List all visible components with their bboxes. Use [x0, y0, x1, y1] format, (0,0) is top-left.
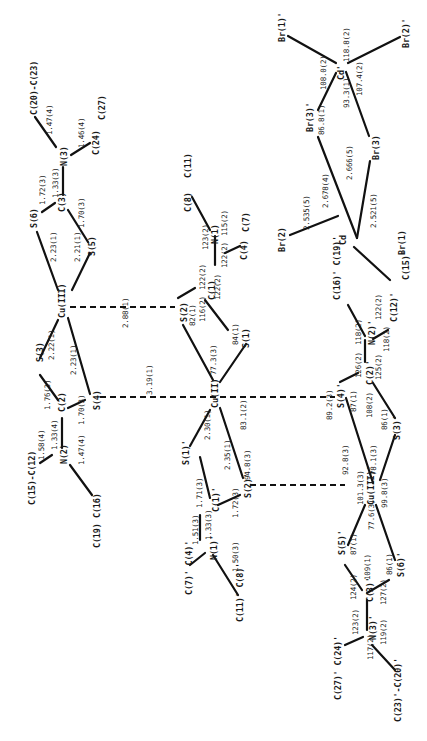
angle-cu2-s4p: 83.1(2) [240, 400, 248, 430]
bond-cu2-s1p: 2.30(1) [204, 410, 212, 440]
angle-cdp-br2p-br3: 107.4(2) [356, 61, 364, 96]
angle-s3p: 86(1) [381, 408, 389, 430]
atom-c19: C(19) [93, 523, 102, 548]
bond-c1p-s2p: 1.72(3) [232, 488, 240, 518]
atom-c11p-c8p: C(11)' C(8)' [236, 563, 245, 622]
atom-n2p: N(2)' [368, 320, 377, 345]
bond-cd-br3: 2.666(5) [346, 145, 354, 180]
crystal-structure-diagram: C(20)-C(23) 1.47(4) 1.46(4) C(24) C(27) … [0, 0, 427, 741]
angle-n3p-c24p: 123(2) [352, 609, 360, 635]
atom-c20-c23: C(20)-C(23) [30, 61, 39, 115]
bond-c2-s4: 1.70(3) [78, 395, 86, 425]
angle-c1-s1: 116(2) [199, 296, 207, 322]
angle-c3p-s6p: 127(2) [380, 579, 388, 605]
bond-cu2-s2p: 2.35(1) [224, 440, 232, 470]
atom-br3: Br(3) [372, 135, 381, 160]
atom-c23p-c20p: C(23)'-C(20)' [394, 658, 403, 722]
atom-c4: C(4) [240, 240, 249, 260]
atom-c7: C(7) [242, 212, 251, 232]
bond-cu3-s5: 2.21(1) [74, 232, 82, 262]
bond-cd-br2: 2.535(5) [303, 195, 311, 230]
atom-s5p: S(5)' [338, 530, 347, 555]
angle-c3p-n3p: 109(1) [364, 554, 372, 580]
angle-cdp-br1p-br2p: 118.8(2) [343, 27, 351, 62]
bond-cu3-s4: 2.23(1) [70, 345, 78, 375]
angle-n3p-c20p: 119(2) [380, 619, 388, 645]
bond-cd-br1: 2.521(5) [370, 193, 378, 228]
atom-n3p: N(3)' [369, 615, 378, 640]
atom-br1p: Br(1)' [278, 12, 287, 42]
atom-s2p: S(2)' [244, 473, 253, 498]
atom-c1p: C(1)' [212, 487, 221, 512]
angle-n2p-c12p: 122(2) [375, 294, 383, 320]
atom-n1p: N(1)' [210, 535, 219, 560]
angle-cu3p-s6p: 99.8(3) [381, 478, 389, 508]
atom-c3p: C(3)' [366, 577, 375, 602]
atom-s4: S(4) [93, 390, 102, 410]
atom-cu3: Cu(III) [58, 284, 67, 318]
bond-cu3-s6: 2.23(1) [50, 232, 58, 262]
atom-n1: N(1) [211, 224, 220, 244]
bond-n2-c12: 1.58(4) [38, 430, 46, 460]
angle-cu3p-s5p: 77.6(3) [368, 500, 376, 530]
atom-c3: C(3) [58, 192, 67, 212]
angle-cdp-br3p-br3: 93.3(1) [343, 78, 351, 108]
angle-n1-other: 122(2) [221, 242, 229, 268]
atom-s3p: S(3)' [393, 415, 402, 440]
angle-cdp-br1p-br3p: 108.0(2) [320, 55, 328, 90]
atom-c11: C(11) [184, 153, 193, 178]
bond-cu3-s2: 2.88(1) [122, 298, 130, 328]
bond-s4-s4p: 3.19(1) [146, 365, 154, 395]
atom-br2: Br(2) [278, 227, 287, 252]
angle-br3p: 86.8(1) [318, 105, 326, 135]
atom-c1: C(1) [208, 280, 217, 300]
bond-c24-n3: 1.46(4) [78, 118, 86, 148]
atom-c16: C(16) [93, 493, 102, 518]
angle-cu3p-s4p: 92.8(3) [342, 445, 350, 475]
atom-s5: S(5) [88, 236, 97, 256]
angle-s5p: 87(1) [350, 533, 358, 555]
atom-br2p: Br(2)' [402, 18, 411, 48]
atom-c2: C(2) [58, 392, 67, 412]
atom-s6p: S(6)' [397, 552, 406, 577]
angle-n2p-c16p: 118(2) [355, 319, 363, 345]
angle-c1-n1: 122(2) [199, 264, 207, 290]
atom-s6: S(6) [30, 208, 39, 228]
angle-n1-c8: 123(2) [202, 224, 210, 250]
atom-c7p-c4p: C(7)' C(4)' [185, 541, 194, 595]
angle-s6p: 86(1) [386, 553, 394, 575]
atom-br3p: Br(3)' [306, 102, 315, 132]
atom-c27p-c24p: C(27)' C(24)' [334, 636, 343, 700]
bond-c3-s5: 1.70(3) [78, 198, 86, 228]
bond-s3-c2: 1.76(3) [44, 380, 52, 410]
angle-c2p-n2p: 125(2) [375, 354, 383, 380]
angle-cu3p-s2p: 101.3(3) [357, 470, 365, 505]
bond-c2-n2: 1.33(4) [51, 420, 59, 450]
atom-c8: C(8) [184, 192, 193, 212]
atom-s4p: S(4)' [337, 383, 346, 408]
angle-n1-c4: 115(2) [221, 210, 229, 236]
atom-n3: N(3) [60, 146, 69, 166]
bond-cd-br3p: 2.678(4) [322, 173, 330, 208]
atom-s1: S(1) [242, 328, 251, 348]
bond-n2-c16: 1.47(4) [78, 435, 86, 465]
atom-cu2: Cu(II) [211, 378, 220, 408]
angle-cu3p-s3p: 78.1(3) [370, 445, 378, 475]
angle-c2p-s3p: 108(2) [366, 392, 374, 418]
angle-s2: 82(1) [189, 304, 197, 326]
atom-c27: C(27) [98, 95, 107, 120]
atom-c12p: C(12)' [390, 292, 399, 322]
atom-c24: C(24) [92, 130, 101, 155]
angle-n2p-other: 118(2) [383, 326, 391, 352]
atom-n2: N(2) [60, 444, 69, 464]
bond-s1p-c1p: 1.71(3) [196, 478, 204, 508]
atom-c15p: C(15)' [402, 250, 411, 280]
angle-c2p-s4p: 126(2) [355, 352, 363, 378]
atom-s1p: S(1)' [182, 440, 191, 465]
angle-cu2-s1: 77.3(3) [210, 345, 218, 375]
bond-cu3-s3: 2.22(1) [48, 330, 56, 360]
bond-c20-n3: 1.47(4) [46, 105, 54, 135]
bond-s6-c3: 1.72(3) [39, 175, 47, 205]
atom-c16p-c19p: C(16)' C(19)' [333, 236, 342, 300]
angle-s1: 84(1) [232, 323, 240, 345]
